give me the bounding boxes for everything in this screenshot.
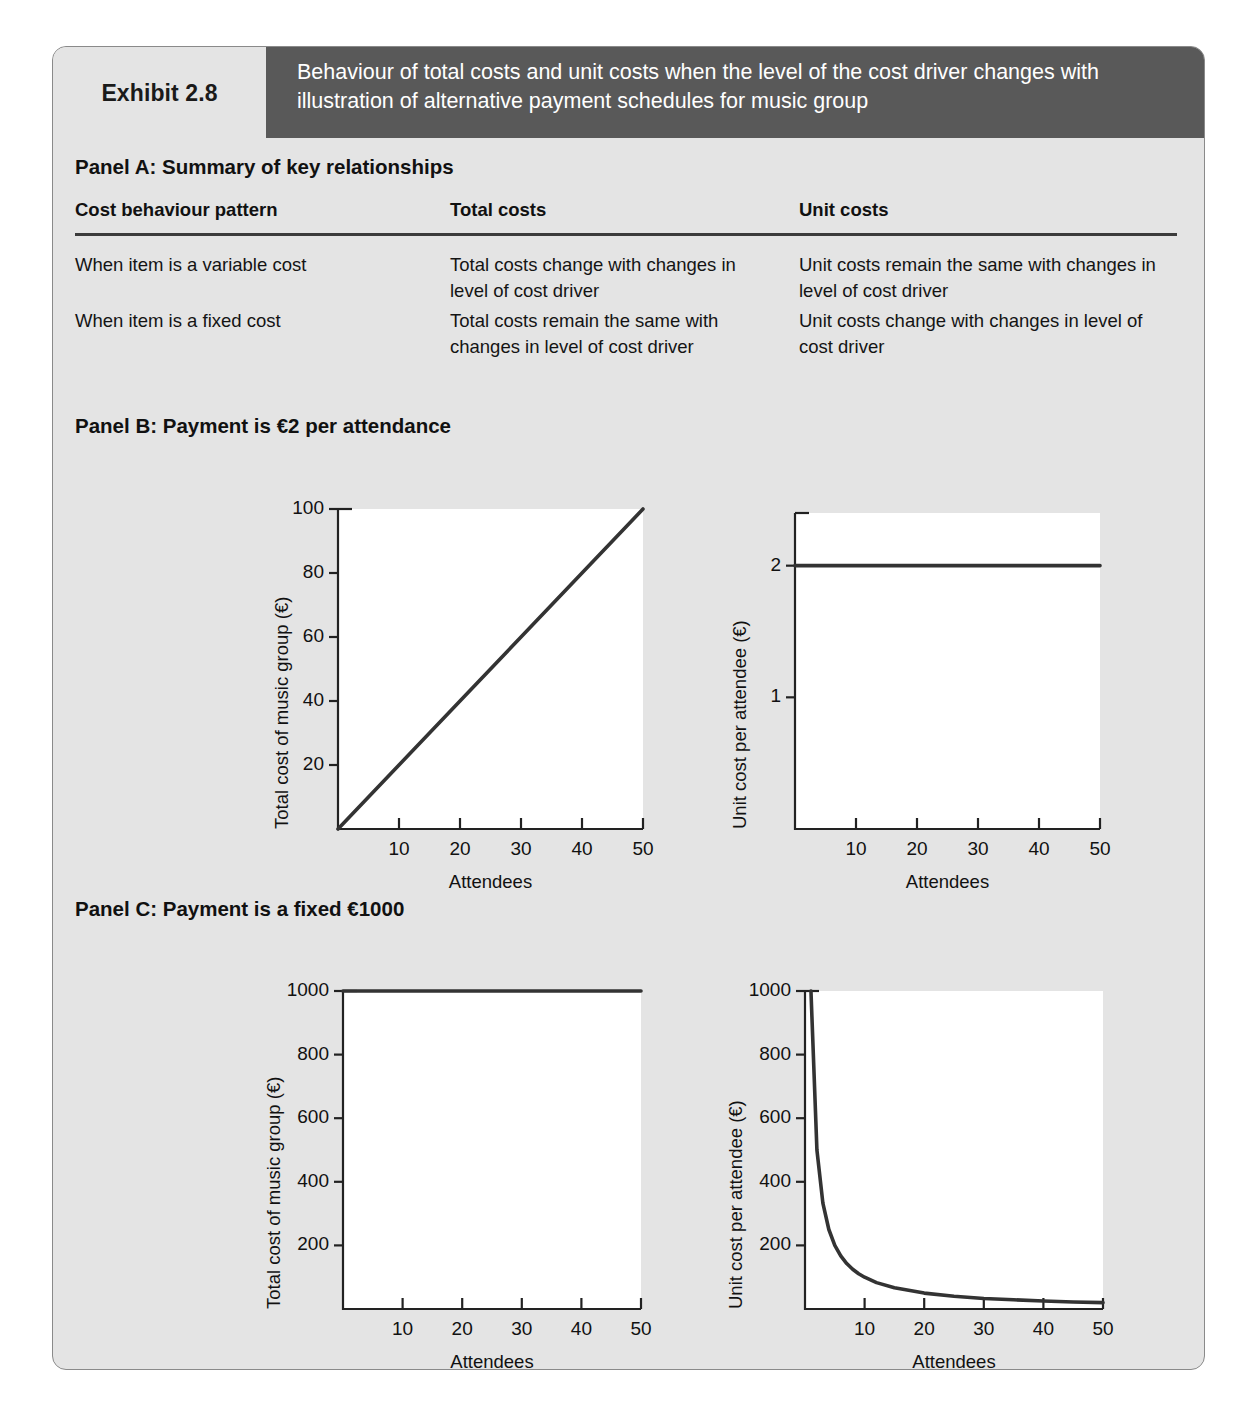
panel-a-heading: Panel A: Summary of key relationships bbox=[75, 155, 454, 179]
y-axis-title: Unit cost per attendee (€) bbox=[725, 1100, 747, 1309]
cell-pattern-fixed: When item is a fixed cost bbox=[75, 308, 450, 359]
table-header-rule bbox=[75, 233, 1177, 236]
chart-c-total-svg bbox=[183, 929, 703, 1329]
table-row: When item is a fixed cost Total costs re… bbox=[75, 308, 1183, 359]
y-axis-title: Total cost of music group (€) bbox=[263, 1077, 285, 1309]
y-axis-title: Unit cost per attendee (€) bbox=[729, 620, 751, 829]
column-header-unit-costs: Unit costs bbox=[799, 199, 1183, 233]
plot-area bbox=[805, 991, 1103, 1309]
x-axis-title: Attendees bbox=[343, 1351, 641, 1370]
chart-panel-c-total-cost: 20040060080010001020304050Total cost of … bbox=[183, 929, 703, 1329]
y-axis-title: Total cost of music group (€) bbox=[271, 597, 293, 829]
exhibit-number-label: Exhibit 2.8 bbox=[101, 80, 217, 107]
cell-total-variable: Total costs change with changes in level… bbox=[450, 252, 799, 303]
panel-c-heading: Panel C: Payment is a fixed €1000 bbox=[75, 897, 404, 921]
exhibit-title: Behaviour of total costs and unit costs … bbox=[297, 58, 1191, 116]
plot-area bbox=[795, 513, 1100, 829]
panel-b-heading: Panel B: Payment is €2 per attendance bbox=[75, 414, 451, 438]
x-axis-title: Attendees bbox=[338, 871, 643, 893]
chart-panel-c-unit-cost: 20040060080010001020304050Unit cost per … bbox=[643, 929, 1163, 1329]
exhibit-card: Behaviour of total costs and unit costs … bbox=[52, 46, 1205, 1370]
cell-unit-fixed: Unit costs change with changes in level … bbox=[799, 308, 1183, 359]
x-axis-title: Attendees bbox=[795, 871, 1100, 893]
table-row: When item is a variable cost Total costs… bbox=[75, 252, 1183, 303]
table-body: When item is a variable cost Total costs… bbox=[75, 252, 1183, 359]
chart-c-unit-svg bbox=[643, 929, 1163, 1329]
panel-a-table: Cost behaviour pattern Total costs Unit … bbox=[75, 199, 1183, 364]
column-header-cost-behaviour-pattern: Cost behaviour pattern bbox=[75, 199, 450, 233]
column-header-total-costs: Total costs bbox=[450, 199, 799, 233]
exhibit-number-tab: Exhibit 2.8 bbox=[53, 47, 266, 139]
cell-pattern-variable: When item is a variable cost bbox=[75, 252, 450, 303]
x-axis-title: Attendees bbox=[805, 1351, 1103, 1370]
chart-b-unit-svg bbox=[643, 447, 1163, 847]
cell-total-fixed: Total costs remain the same with changes… bbox=[450, 308, 799, 359]
chart-b-total-svg bbox=[183, 447, 703, 847]
chart-panel-b-total-cost: 204060801001020304050Total cost of music… bbox=[183, 447, 703, 847]
cell-unit-variable: Unit costs remain the same with changes … bbox=[799, 252, 1183, 303]
table-header-row: Cost behaviour pattern Total costs Unit … bbox=[75, 199, 1183, 233]
chart-panel-b-unit-cost: 121020304050Unit cost per attendee (€)At… bbox=[643, 447, 1163, 847]
exhibit-header-bar: Behaviour of total costs and unit costs … bbox=[265, 46, 1205, 138]
plot-area bbox=[343, 991, 641, 1309]
